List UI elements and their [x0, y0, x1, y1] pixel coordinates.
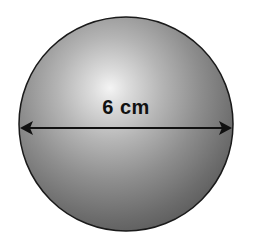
sphere-diagram: 6 cm: [0, 0, 255, 249]
sphere-body: [19, 17, 233, 231]
sphere-graphic: [0, 0, 255, 249]
diameter-label: 6 cm: [76, 96, 176, 118]
